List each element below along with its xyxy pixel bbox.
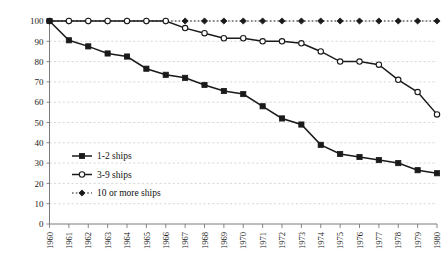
y-axis-label: 40: [35, 138, 45, 148]
y-axis-label: 20: [35, 179, 45, 189]
data-point-marker: [202, 30, 207, 35]
x-axis-label: 1967: [180, 232, 190, 249]
data-point-marker: [144, 66, 149, 71]
x-axis-label: 1977: [374, 232, 384, 249]
data-point-marker: [396, 77, 401, 82]
data-point-marker: [318, 18, 324, 24]
data-point-marker: [395, 18, 401, 24]
legend-item-3-9-ships[interactable]: 3-9 ships: [72, 170, 132, 180]
data-point-marker: [260, 18, 266, 24]
data-point-marker: [79, 153, 84, 158]
data-point-marker: [240, 18, 246, 24]
x-axis-label: 1978: [393, 232, 403, 249]
data-point-marker: [376, 157, 381, 162]
data-point-marker: [79, 172, 84, 177]
data-point-marker: [105, 18, 110, 23]
y-axis-label: 30: [35, 158, 45, 168]
data-point-marker: [86, 44, 91, 49]
y-axis-label: 100: [30, 16, 44, 26]
data-point-marker: [279, 116, 284, 121]
data-point-marker: [66, 18, 71, 23]
legend-item-10-or-more-ships[interactable]: 10 or more ships: [72, 188, 161, 198]
data-point-marker: [105, 51, 110, 56]
y-axis-label: 90: [35, 37, 45, 47]
data-point-marker: [415, 89, 420, 94]
legend-label: 10 or more ships: [97, 188, 161, 198]
data-point-marker: [298, 18, 304, 24]
data-point-marker: [201, 18, 207, 24]
x-axis-label: 1966: [161, 232, 171, 249]
data-point-marker: [144, 18, 149, 23]
y-axis-label: 70: [35, 77, 45, 87]
data-point-marker: [415, 18, 421, 24]
data-point-marker: [221, 36, 226, 41]
data-point-marker: [318, 142, 323, 147]
x-axis-tick-labels: 1960196119621963196419651966196719681969…: [45, 231, 443, 249]
y-axis-label: 80: [35, 57, 45, 67]
legend-label: 3-9 ships: [97, 170, 132, 180]
data-point-marker: [163, 18, 168, 23]
data-point-marker: [124, 54, 129, 59]
data-point-marker: [221, 18, 227, 24]
data-point-marker: [396, 161, 401, 166]
data-point-marker: [260, 39, 265, 44]
data-point-marker: [66, 38, 71, 43]
data-point-marker: [86, 18, 91, 23]
x-axis-label: 1976: [355, 232, 365, 249]
y-axis-tick-labels: 0102030405060708090100: [30, 16, 44, 229]
data-point-marker: [202, 82, 207, 87]
x-axis-label: 1980: [432, 232, 442, 249]
data-point-marker: [357, 154, 362, 159]
data-point-marker: [338, 151, 343, 156]
data-point-marker: [434, 18, 440, 24]
data-point-marker: [241, 36, 246, 41]
data-point-marker: [376, 62, 381, 67]
x-axis-label: 1972: [277, 232, 287, 249]
data-point-marker: [318, 49, 323, 54]
data-point-marker: [279, 39, 284, 44]
x-axis-label: 1964: [122, 231, 132, 249]
data-point-marker: [356, 18, 362, 24]
x-axis-tick-marks: [50, 224, 438, 228]
data-point-marker: [337, 18, 343, 24]
y-axis-label: 10: [35, 199, 45, 209]
x-axis-label: 1970: [238, 232, 248, 249]
x-axis-label: 1974: [316, 231, 326, 249]
y-axis-label: 50: [35, 118, 45, 128]
data-point-marker: [279, 18, 285, 24]
legend-item-1-2-ships[interactable]: 1-2 ships: [72, 151, 132, 161]
y-axis-label: 0: [39, 219, 44, 229]
x-axis-label: 1979: [413, 232, 423, 249]
data-point-marker: [260, 104, 265, 109]
data-point-marker: [357, 59, 362, 64]
data-point-marker: [415, 168, 420, 173]
data-point-marker: [299, 122, 304, 127]
x-axis-label: 1962: [83, 232, 93, 249]
line-chart: 0102030405060708090100 19601961196219631…: [0, 0, 445, 269]
x-axis-label: 1968: [200, 232, 210, 249]
data-point-marker: [376, 18, 382, 24]
x-axis-label: 1971: [258, 232, 268, 249]
data-point-marker: [163, 72, 168, 77]
data-point-marker: [182, 18, 188, 24]
data-point-marker: [337, 59, 342, 64]
data-point-marker: [434, 171, 439, 176]
data-point-marker: [221, 88, 226, 93]
data-point-marker: [79, 190, 85, 196]
x-axis-label: 1969: [219, 232, 229, 249]
data-point-marker: [434, 112, 439, 117]
data-point-marker: [241, 91, 246, 96]
legend-label: 1-2 ships: [97, 151, 132, 161]
data-point-marker: [182, 25, 187, 30]
y-axis-label: 60: [35, 97, 45, 107]
x-axis-label: 1961: [64, 232, 74, 249]
data-point-marker: [124, 18, 129, 23]
x-axis-label: 1963: [103, 232, 113, 249]
x-axis-label: 1975: [335, 232, 345, 249]
x-axis-label: 1965: [142, 232, 152, 249]
data-point-marker: [299, 41, 304, 46]
chart-legend: 1-2 ships3-9 ships10 or more ships: [72, 151, 161, 198]
chart-container: 0102030405060708090100 19601961196219631…: [0, 0, 445, 269]
x-axis-label: 1960: [45, 232, 55, 249]
data-point-marker: [183, 75, 188, 80]
